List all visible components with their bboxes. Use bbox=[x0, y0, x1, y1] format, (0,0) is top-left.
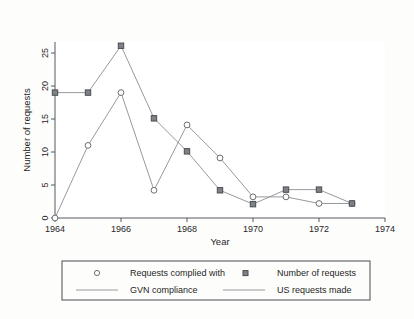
data-point-circle bbox=[250, 194, 256, 200]
chart-legend: Requests complied with Number of request… bbox=[62, 261, 370, 300]
y-axis-tick-labels: 0 5 10 15 20 25 bbox=[40, 48, 50, 221]
y-tick-label-5: 5 bbox=[40, 182, 50, 187]
legend-label-requests-complied-with: Requests complied with bbox=[130, 268, 225, 278]
data-point-circle bbox=[52, 215, 58, 221]
legend-marker-square-icon bbox=[243, 271, 248, 276]
x-axis-tick-labels: 1964 1966 1968 1970 1972 1974 bbox=[45, 224, 395, 234]
data-point-square bbox=[52, 90, 57, 95]
x-tick-label-1974: 1974 bbox=[375, 224, 395, 234]
y-tick-label-10: 10 bbox=[40, 147, 50, 157]
legend-marker-circle-icon bbox=[94, 270, 99, 275]
y-tick-label-15: 15 bbox=[40, 114, 50, 124]
x-axis-ticks bbox=[55, 218, 385, 222]
data-point-square bbox=[118, 43, 123, 48]
data-point-square bbox=[217, 188, 222, 193]
x-tick-label-1970: 1970 bbox=[243, 224, 263, 234]
data-point-circle bbox=[85, 143, 91, 149]
legend-label-number-of-requests: Number of requests bbox=[277, 268, 357, 278]
y-tick-label-0: 0 bbox=[40, 215, 50, 220]
x-tick-label-1966: 1966 bbox=[111, 224, 131, 234]
data-point-square bbox=[85, 90, 90, 95]
x-tick-label-1968: 1968 bbox=[177, 224, 197, 234]
data-point-circle bbox=[151, 187, 157, 193]
x-axis-title: Year bbox=[210, 236, 229, 247]
data-point-square bbox=[184, 149, 189, 154]
legend-label-us-requests-made: US requests made bbox=[277, 285, 352, 295]
chart-figure: 0 5 10 15 20 25 Number of requests 1964 … bbox=[0, 0, 414, 319]
data-point-square bbox=[349, 201, 354, 206]
data-point-square bbox=[283, 187, 288, 192]
x-tick-label-1964: 1964 bbox=[45, 224, 65, 234]
legend-label-gvn-compliance: GVN compliance bbox=[130, 285, 198, 295]
data-point-square bbox=[250, 201, 255, 206]
data-point-circle bbox=[217, 155, 223, 161]
y-tick-label-25: 25 bbox=[40, 48, 50, 58]
data-point-circle bbox=[118, 90, 124, 96]
x-tick-label-1972: 1972 bbox=[309, 224, 329, 234]
data-point-square bbox=[151, 116, 156, 121]
data-point-circle bbox=[316, 201, 322, 207]
line-chart-canvas: 0 5 10 15 20 25 Number of requests 1964 … bbox=[0, 0, 414, 319]
y-axis-ticks bbox=[51, 53, 55, 218]
data-point-circle bbox=[283, 194, 289, 200]
y-axis-title: Number of requests bbox=[21, 88, 32, 172]
data-point-circle bbox=[184, 122, 190, 128]
data-point-square bbox=[316, 187, 321, 192]
y-tick-label-20: 20 bbox=[40, 81, 50, 91]
